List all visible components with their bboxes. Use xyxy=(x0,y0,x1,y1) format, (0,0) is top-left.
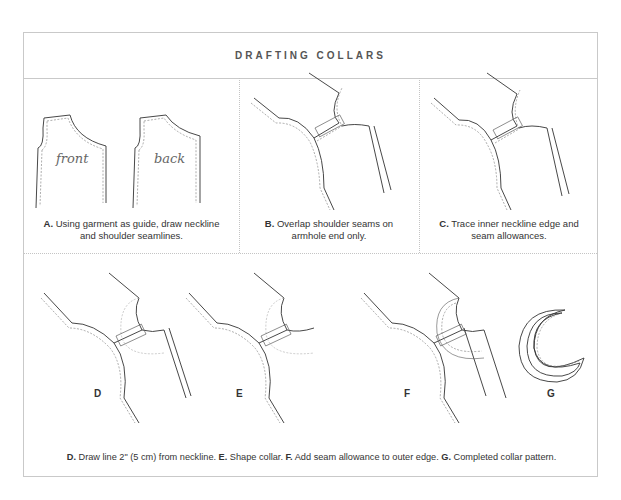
caption-text: armhole end only. xyxy=(292,230,367,241)
shape-collar-illustration xyxy=(169,258,329,448)
completed-collar-icon xyxy=(519,258,599,448)
caption-text: Shape collar. xyxy=(227,452,285,462)
caption-text: Overlap shoulder seams on xyxy=(277,218,393,229)
panel-d: D xyxy=(24,258,189,448)
bodice-front-back-illustration: front back xyxy=(24,78,239,218)
panel-f: F xyxy=(344,258,504,448)
caption-text: Completed collar pattern. xyxy=(451,452,556,462)
caption-a: A. Using garment as guide, draw neckline… xyxy=(24,218,239,242)
caption-text: Using garment as guide, draw neckline xyxy=(56,218,220,229)
caption-text: Trace inner neckline edge and xyxy=(451,218,578,229)
page-title: DRAFTING COLLARS xyxy=(235,50,386,61)
row-divider xyxy=(24,253,597,254)
draw-line-illustration xyxy=(24,258,189,448)
caption-letter: F. xyxy=(286,452,293,462)
back-label: back xyxy=(154,151,185,166)
front-label: front xyxy=(55,151,89,166)
caption-c: C. Trace inner neckline edge and seam al… xyxy=(419,218,599,242)
caption-letter: B. xyxy=(265,218,275,229)
diagram-frame: DRAFTING COLLARS front back A. Using gar… xyxy=(23,32,598,477)
panel-c: C. Trace inner neckline edge and seam al… xyxy=(419,78,599,253)
header: DRAFTING COLLARS xyxy=(24,33,597,79)
panel-a: front back A. Using garment as guide, dr… xyxy=(24,78,239,253)
caption-text: seam allowances. xyxy=(471,230,547,241)
panel-e: E xyxy=(169,258,329,448)
step-letter-f: F xyxy=(404,388,410,399)
caption-text: Add seam allowance to outer edge. xyxy=(293,452,442,462)
caption-letter: E. xyxy=(219,452,228,462)
caption-letter: C. xyxy=(439,218,449,229)
caption-letter: A. xyxy=(44,218,54,229)
caption-text: Draw line 2" (5 cm) from neckline. xyxy=(76,452,219,462)
step-letter-d: D xyxy=(94,388,101,399)
trace-neckline-illustration xyxy=(419,78,599,218)
panel-b: B. Overlap shoulder seams on armhole end… xyxy=(239,78,419,253)
bottom-caption: D. Draw line 2" (5 cm) from neckline. E.… xyxy=(24,451,599,463)
seam-allowance-illustration xyxy=(344,258,504,448)
caption-text: and shoulder seamlines. xyxy=(80,230,183,241)
caption-letter: D. xyxy=(67,452,76,462)
caption-b: B. Overlap shoulder seams on armhole end… xyxy=(239,218,419,242)
panel-g: G xyxy=(519,258,599,448)
overlap-shoulders-illustration xyxy=(239,78,419,218)
step-letter-e: E xyxy=(236,388,243,399)
caption-letter: G. xyxy=(441,452,451,462)
step-letter-g: G xyxy=(547,388,555,399)
